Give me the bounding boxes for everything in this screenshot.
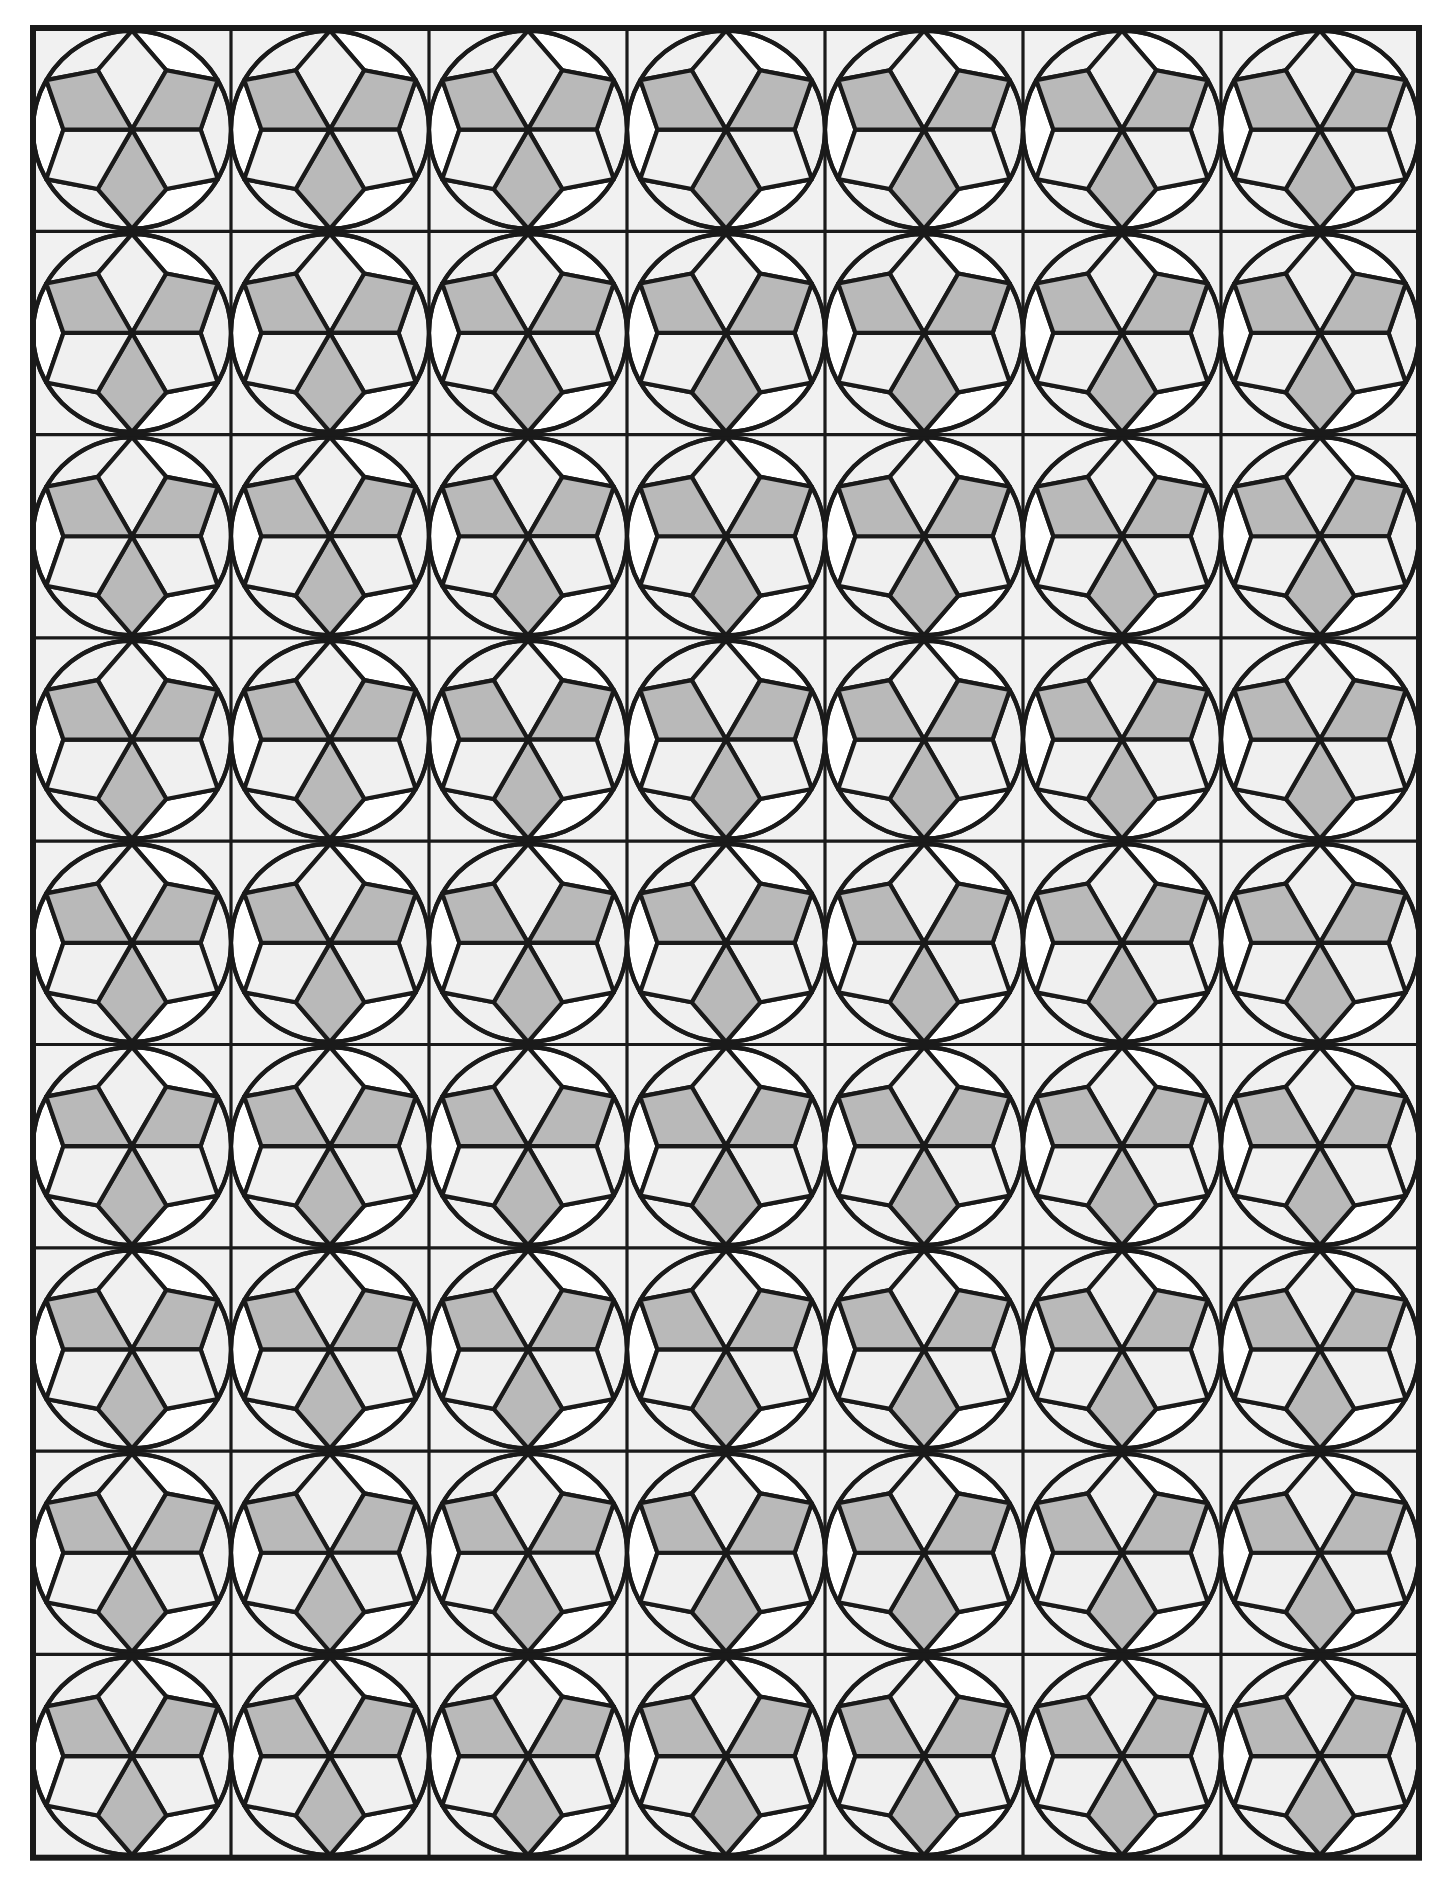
tile-cell xyxy=(1221,841,1419,1044)
tile-cell xyxy=(825,28,1023,231)
tile-cell xyxy=(825,841,1023,1044)
tile-cell xyxy=(825,435,1023,638)
tile-cell xyxy=(1023,28,1221,231)
tile-cell xyxy=(429,841,627,1044)
tile-cell xyxy=(231,435,429,638)
tile-cell xyxy=(825,1045,1023,1248)
tile-cell xyxy=(231,638,429,841)
tile-cell xyxy=(825,1248,1023,1451)
tile-cell xyxy=(627,1654,825,1857)
tile-cell xyxy=(429,28,627,231)
tile-cell xyxy=(1221,231,1419,434)
tile-cell xyxy=(429,231,627,434)
tile-cell xyxy=(429,1451,627,1654)
tile-cell xyxy=(1023,435,1221,638)
tile-cell xyxy=(231,1654,429,1857)
tile-cell xyxy=(1023,841,1221,1044)
tile-cell xyxy=(1221,1248,1419,1451)
tile-cell xyxy=(33,638,231,841)
tile-cell xyxy=(825,231,1023,434)
tile-cell xyxy=(627,231,825,434)
tile-cell xyxy=(1023,231,1221,434)
tile-cell xyxy=(33,231,231,434)
tile-cell xyxy=(1221,1451,1419,1654)
tile-cell xyxy=(627,1045,825,1248)
tiles-layer xyxy=(33,28,1419,1858)
tile-cell xyxy=(33,1451,231,1654)
tile-cell xyxy=(231,1045,429,1248)
tile-cell xyxy=(1023,1451,1221,1654)
tile-cell xyxy=(429,1248,627,1451)
tile-cell xyxy=(627,1451,825,1654)
tile-cell xyxy=(33,28,231,231)
tile-cell xyxy=(33,1654,231,1857)
tile-cell xyxy=(429,1045,627,1248)
tile-cell xyxy=(1023,1045,1221,1248)
tile-cell xyxy=(627,638,825,841)
tile-cell xyxy=(825,638,1023,841)
tile-cell xyxy=(1221,1654,1419,1857)
tile-cell xyxy=(627,841,825,1044)
tile-cell xyxy=(33,1248,231,1451)
tile-cell xyxy=(429,1654,627,1857)
tile-cell xyxy=(1023,1248,1221,1451)
tile-cell xyxy=(231,231,429,434)
tile-cell xyxy=(627,28,825,231)
tile-cell xyxy=(825,1451,1023,1654)
tile-cell xyxy=(429,435,627,638)
tile-cell xyxy=(231,841,429,1044)
tile-cell xyxy=(1023,1654,1221,1857)
tile-cell xyxy=(1221,1045,1419,1248)
tile-cell xyxy=(231,28,429,231)
tile-cell xyxy=(1221,28,1419,231)
tile-cell xyxy=(825,1654,1023,1857)
tile-cell xyxy=(33,841,231,1044)
tile-cell xyxy=(33,435,231,638)
pattern-canvas xyxy=(0,0,1456,1899)
tile-cell xyxy=(33,1045,231,1248)
tile-cell xyxy=(1221,638,1419,841)
tile-cell xyxy=(429,638,627,841)
tile-cell xyxy=(627,1248,825,1451)
tile-cell xyxy=(1221,435,1419,638)
rosette-tiling-svg xyxy=(0,0,1456,1899)
tile-cell xyxy=(1023,638,1221,841)
tile-cell xyxy=(627,435,825,638)
tile-cell xyxy=(231,1451,429,1654)
tile-cell xyxy=(231,1248,429,1451)
